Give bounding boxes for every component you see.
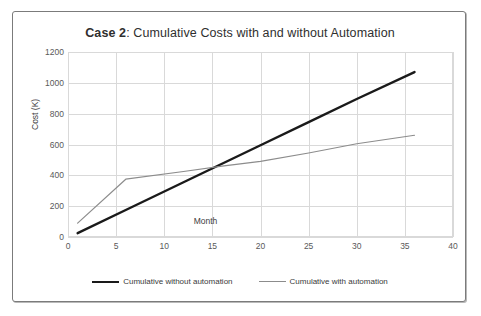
x-tick-label: 0 [66,241,71,251]
x-tick-label: 25 [304,241,313,251]
y-tick-label: 200 [50,201,64,211]
y-axis-tick-labels: 020040060080010001200 [37,52,64,237]
x-tick-label: 15 [208,241,217,251]
legend-swatch-icon [259,281,286,282]
y-tick-label: 1000 [45,78,64,88]
x-axis-title: Month [13,216,398,226]
x-tick-label: 35 [400,241,409,251]
series-layer [68,52,453,237]
gridline-vertical [453,52,454,237]
legend-label: Cumulative with automation [290,277,388,286]
legend-label: Cumulative without automation [123,277,232,286]
legend-item[interactable]: Cumulative without automation [92,277,232,286]
x-tick-label: 30 [352,241,361,251]
chart-figure: Case 2: Cumulative Costs with and withou… [12,11,466,302]
chart-title: Case 2: Cumulative Costs with and withou… [13,26,467,40]
y-tick-label: 1200 [45,47,64,57]
legend-item[interactable]: Cumulative with automation [259,277,388,286]
x-tick-label: 10 [160,241,169,251]
chart-legend: Cumulative without automationCumulative … [13,277,467,286]
legend-swatch-icon [92,281,119,283]
y-tick-label: 800 [50,109,64,119]
y-tick-label: 0 [59,232,64,242]
chart-title-text: : Cumulative Costs with and without Auto… [126,26,395,40]
x-tick-label: 40 [448,241,457,251]
y-tick-label: 600 [50,140,64,150]
chart-title-case: Case 2 [85,26,126,40]
x-tick-label: 5 [114,241,119,251]
series-line [78,72,415,233]
plot-wrap: 020040060080010001200 0510152025303540 [68,52,453,237]
x-tick-label: 20 [256,241,265,251]
y-tick-label: 400 [50,170,64,180]
x-axis-tick-labels: 0510152025303540 [68,237,453,253]
